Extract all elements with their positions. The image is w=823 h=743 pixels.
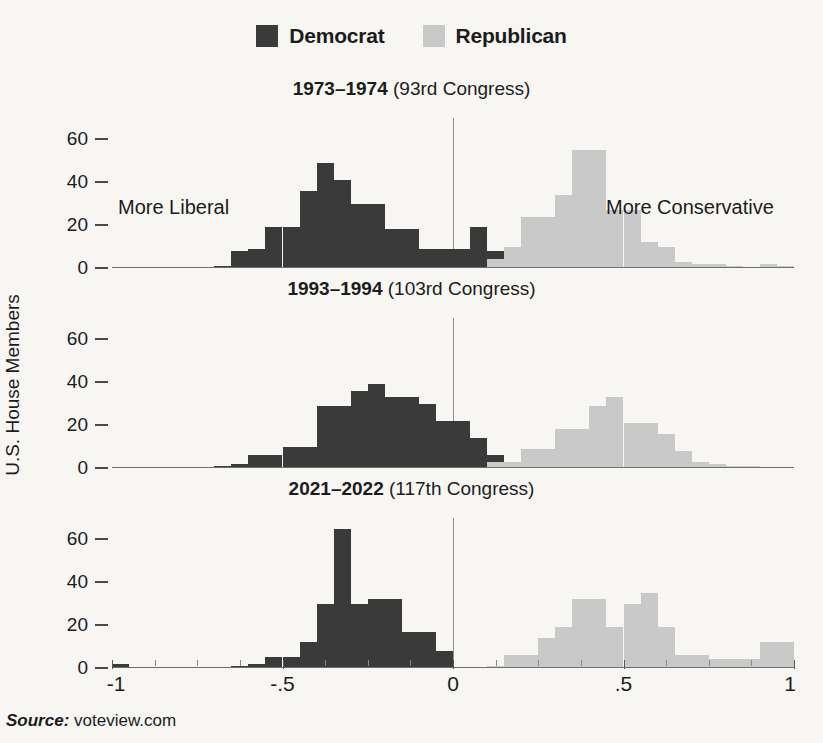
x-axis-minor-tick: [496, 660, 497, 666]
histogram-bar: [470, 227, 487, 268]
x-axis-label-1: -.5: [270, 672, 295, 696]
y-axis-tick-label: 20: [67, 614, 88, 636]
x-axis-label-3: .5: [615, 672, 633, 696]
legend-label-rep: Republican: [456, 24, 567, 48]
histogram-bar: [317, 604, 334, 668]
panel-congress: (117th Congress): [384, 478, 535, 499]
y-axis-tick-label: 40: [67, 571, 88, 593]
x-axis-major-tick: [453, 660, 454, 669]
histogram-bar: [402, 397, 419, 468]
panel-congress-93: 1973–1974 (93rd Congress)0204060More Lib…: [0, 78, 823, 274]
legend-swatch-dem: [256, 25, 278, 47]
histogram-bar: [521, 449, 538, 468]
histogram-bar: [572, 429, 589, 468]
histogram-bar: [283, 447, 300, 468]
histogram-bar: [572, 150, 589, 268]
y-axis-tick-40: 40: [67, 171, 108, 193]
histogram-bar: [300, 191, 317, 268]
y-axis-tick-mark: [95, 224, 108, 226]
histogram-bar: [624, 604, 641, 668]
histogram-bar: [385, 599, 402, 668]
histogram-bar: [538, 217, 555, 268]
histogram-bar: [641, 242, 658, 268]
y-axis-tick-label: 40: [67, 171, 88, 193]
x-axis-minor-tick: [155, 660, 156, 666]
histogram-bar: [453, 421, 470, 468]
zero-reference-line: [453, 518, 454, 668]
histogram-bar: [470, 438, 487, 468]
histogram-bar: [334, 406, 351, 468]
histogram-bar: [419, 249, 436, 268]
x-axis-minor-tick: [751, 660, 752, 666]
annotation-more-conservative: More Conservative: [606, 196, 774, 219]
y-axis-tick-label: 20: [67, 214, 88, 236]
histogram-bar: [231, 251, 248, 268]
y-axis-tick-0: 0: [77, 457, 108, 479]
y-axis-title: U.S. House Members: [2, 40, 24, 270]
panel-congress: (93rd Congress): [388, 78, 531, 99]
y-axis-tick-label: 20: [67, 414, 88, 436]
histogram-bar: [368, 204, 385, 268]
y-axis-tick-mark: [95, 467, 108, 469]
annotation-more-liberal: More Liberal: [118, 196, 229, 219]
panel-title-congress-93: 1973–1974 (93rd Congress): [0, 78, 823, 100]
y-axis-tick-mark: [95, 181, 108, 183]
panel-congress: (103rd Congress): [382, 278, 535, 299]
y-axis-tick-0: 0: [77, 657, 108, 679]
y-axis-tick-label: 60: [67, 528, 88, 550]
y-axis-tick-label: 0: [77, 457, 88, 479]
x-axis-major-tick: [112, 660, 113, 669]
y-axis-tick-40: 40: [67, 371, 108, 393]
y-axis-tick-20: 20: [67, 214, 108, 236]
histogram-bar: [521, 217, 538, 268]
x-axis: -1-.50.51: [112, 660, 794, 700]
plot-area-congress-117: [112, 518, 794, 668]
histogram-bar: [436, 421, 453, 468]
y-axis-tick-60: 60: [67, 328, 108, 350]
panel-baseline: [112, 267, 794, 268]
histogram-bar: [334, 529, 351, 668]
chart-legend: DemocratRepublican: [0, 24, 823, 48]
y-axis-tick-label: 0: [77, 257, 88, 279]
y-axis-tick-mark: [95, 581, 108, 583]
histogram-bar: [504, 247, 521, 268]
histogram-bar: [589, 599, 606, 668]
y-axis-tick-mark: [95, 381, 108, 383]
y-axis-tick-label: 60: [67, 128, 88, 150]
histogram-bar: [436, 249, 453, 268]
histogram-bar: [334, 180, 351, 268]
panel-years: 2021–2022: [289, 478, 384, 499]
histogram-bar: [658, 247, 675, 268]
histogram-bar: [248, 249, 265, 268]
panel-title-congress-117: 2021–2022 (117th Congress): [0, 478, 823, 500]
y-axis-tick-40: 40: [67, 571, 108, 593]
histogram-bar: [351, 391, 368, 468]
panel-baseline: [112, 467, 794, 468]
histogram-bar: [606, 397, 623, 468]
y-axis-tick-mark: [95, 338, 108, 340]
histogram-bar: [385, 397, 402, 468]
y-axis-tick-mark: [95, 267, 108, 269]
y-axis-tick-label: 40: [67, 371, 88, 393]
x-axis-minor-tick: [709, 660, 710, 666]
y-axis-tick-60: 60: [67, 128, 108, 150]
panel-congress-103: 1993–1994 (103rd Congress)0204060: [0, 278, 823, 474]
histogram-bar: [351, 604, 368, 668]
y-axis-tick-label: 0: [77, 657, 88, 679]
x-axis-minor-tick: [666, 660, 667, 666]
source-value: voteview.com: [74, 711, 176, 730]
zero-reference-line: [453, 118, 454, 268]
plot-area-congress-93: [112, 118, 794, 268]
histogram-bar: [317, 406, 334, 468]
panel-years: 1993–1994: [287, 278, 382, 299]
histogram-bar: [300, 447, 317, 468]
x-axis-major-tick: [283, 660, 284, 669]
y-axis-tick-60: 60: [67, 528, 108, 550]
histogram-bar: [351, 204, 368, 268]
histogram-bar: [675, 451, 692, 468]
histogram-bar: [368, 599, 385, 668]
x-axis-label-0: -1: [107, 672, 126, 696]
histogram-bar: [641, 593, 658, 668]
histogram-bar: [402, 229, 419, 268]
plot-area-congress-103: [112, 318, 794, 468]
